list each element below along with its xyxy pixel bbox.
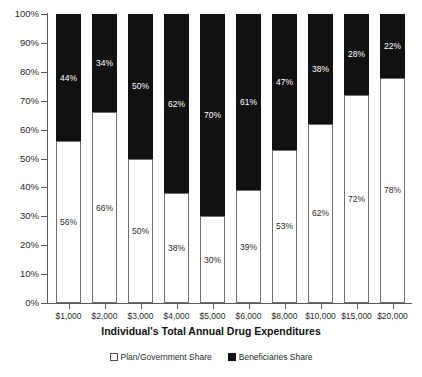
x-axis-tick [177, 303, 178, 309]
bar-segment-beneficiaries-share: 70% [200, 14, 225, 216]
bar-segment-label: 30% [201, 256, 224, 265]
x-axis-tick [285, 303, 286, 309]
legend-label: Beneficiaries Share [239, 352, 313, 362]
white-square-icon [110, 353, 118, 361]
y-axis-tick-label: 0% [0, 298, 39, 308]
bar-segment-label: 62% [309, 209, 332, 218]
bar-segment-plan-government-share: 66% [92, 112, 117, 303]
bar-segment-beneficiaries-share: 28% [344, 14, 369, 95]
bar-group: 47%53% [272, 14, 297, 303]
y-axis-tick-label-text: 90% [1, 38, 39, 48]
legend-item-beneficiaries-share: Beneficiaries Share [228, 352, 313, 362]
y-axis-tick [41, 72, 48, 73]
y-axis-tick [41, 274, 48, 275]
y-axis-tick-label-text: 80% [1, 67, 39, 77]
bar-segment-beneficiaries-share: 38% [308, 14, 333, 124]
y-axis-tick [41, 245, 48, 246]
y-axis-tick-label: 10% [0, 269, 39, 279]
y-axis-tick-label-text: 70% [1, 96, 39, 106]
bar-segment-plan-government-share: 30% [200, 216, 225, 303]
bar-group: 61%39% [236, 14, 261, 303]
x-axis-tick [321, 303, 322, 309]
y-axis-tick-label-text: 30% [1, 211, 39, 221]
y-axis-tick [41, 187, 48, 188]
y-axis-tick-label: 100% [0, 9, 39, 19]
black-square-icon [228, 353, 236, 361]
bar-segment-beneficiaries-share: 62% [164, 14, 189, 193]
legend-label: Plan/Government Share [121, 352, 212, 362]
bar-segment-label: 50% [129, 227, 152, 236]
y-axis-tick-label: 30% [0, 211, 39, 221]
bar-segment-plan-government-share: 38% [164, 193, 189, 303]
y-axis-tick-label-text: 50% [1, 154, 39, 164]
y-axis-tick [41, 14, 48, 15]
bar-segment-label: 61% [237, 98, 260, 107]
x-axis-tick [357, 303, 358, 309]
bar-segment-label: 34% [93, 59, 116, 68]
bar-segment-label: 78% [381, 186, 404, 195]
bar-segment-label: 62% [165, 100, 188, 109]
bar-group: 62%38% [164, 14, 189, 303]
y-axis-tick-label: 40% [0, 182, 39, 192]
bar-segment-plan-government-share: 62% [308, 124, 333, 303]
bar-group: 70%30% [200, 14, 225, 303]
x-axis-tick [69, 303, 70, 309]
bar-segment-beneficiaries-share: 44% [56, 14, 81, 141]
x-axis-tick [393, 303, 394, 309]
bar-segment-label: 50% [129, 82, 152, 91]
bar-group: 50%50% [128, 14, 153, 303]
y-axis-tick [41, 216, 48, 217]
y-axis-tick-label-text: 100% [1, 9, 39, 19]
bar-segment-beneficiaries-share: 50% [128, 14, 153, 159]
bar-segment-plan-government-share: 72% [344, 95, 369, 303]
x-axis-tick [141, 303, 142, 309]
y-axis-tick-label: 60% [0, 125, 39, 135]
x-axis-tick-label: $20,000 [371, 311, 415, 321]
legend-item-plan-government-share: Plan/Government Share [110, 352, 212, 362]
bar-group: 22%78% [380, 14, 405, 303]
bar-segment-label: 38% [165, 244, 188, 253]
bar-group: 34%66% [92, 14, 117, 303]
y-axis-tick-label: 20% [0, 240, 39, 250]
y-axis-tick [41, 303, 48, 304]
bar-segment-plan-government-share: 39% [236, 190, 261, 303]
bar-segment-plan-government-share: 53% [272, 150, 297, 303]
y-axis-tick-label: 80% [0, 67, 39, 77]
stacked-bar-chart: 0%10%20%30%40%50%60%70%80%90%100% 44%56%… [0, 0, 422, 377]
bar-segment-label: 66% [93, 204, 116, 213]
bar-group: 44%56% [56, 14, 81, 303]
y-axis-tick [41, 159, 48, 160]
y-axis-tick [41, 101, 48, 102]
y-axis-tick-label-text: 40% [1, 182, 39, 192]
x-axis-tick [213, 303, 214, 309]
y-axis-tick-label: 90% [0, 38, 39, 48]
bar-segment-beneficiaries-share: 61% [236, 14, 261, 190]
y-axis-tick-label-text: 10% [1, 269, 39, 279]
x-axis-tick [249, 303, 250, 309]
y-axis-tick-label-text: 60% [1, 125, 39, 135]
bar-group: 28%72% [344, 14, 369, 303]
bar-segment-label: 56% [57, 218, 80, 227]
bar-group: 38%62% [308, 14, 333, 303]
bar-segment-label: 44% [57, 74, 80, 83]
bar-segment-plan-government-share: 78% [380, 78, 405, 303]
bar-segment-plan-government-share: 50% [128, 159, 153, 304]
bar-segment-label: 28% [345, 50, 368, 59]
chart-legend: Plan/Government Share Beneficiaries Shar… [0, 352, 422, 362]
y-axis-tick-label-text: 20% [1, 240, 39, 250]
bar-segment-plan-government-share: 56% [56, 141, 81, 303]
bar-segment-label: 38% [309, 65, 332, 74]
bar-segment-label: 22% [381, 42, 404, 51]
y-axis-tick [41, 43, 48, 44]
bar-segment-beneficiaries-share: 22% [380, 14, 405, 78]
x-axis-tick [105, 303, 106, 309]
x-axis-title: Individual's Total Annual Drug Expenditu… [0, 325, 422, 337]
y-axis-tick-label: 50% [0, 154, 39, 164]
bar-segment-label: 47% [273, 78, 296, 87]
y-axis-tick [41, 130, 48, 131]
bar-segment-beneficiaries-share: 47% [272, 14, 297, 150]
bar-segment-label: 72% [345, 195, 368, 204]
bar-segment-label: 53% [273, 222, 296, 231]
bar-segment-label: 39% [237, 243, 260, 252]
bar-segment-beneficiaries-share: 34% [92, 14, 117, 112]
